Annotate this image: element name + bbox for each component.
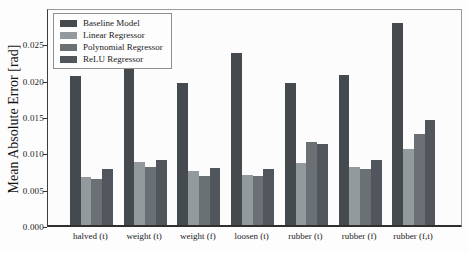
bar-relu-regressor-weight-f	[210, 168, 221, 225]
legend-label: Baseline Model	[83, 18, 140, 28]
bar-baseline-model-rubber-f	[339, 75, 350, 225]
y-tick-mark	[43, 191, 47, 192]
y-tick-mark	[43, 82, 47, 83]
bar-linear-regressor-weight-t	[134, 162, 145, 225]
legend-swatch-linear-regressor	[60, 32, 77, 39]
y-tick-mark	[43, 118, 47, 119]
bar-polynomial-regressor-loosen-t	[253, 176, 264, 225]
bar-baseline-model-halved-t	[70, 76, 81, 225]
bar-relu-regressor-weight-t	[156, 160, 167, 225]
bar-linear-regressor-rubber-t	[296, 163, 307, 226]
legend-swatch-polynomial-regressor	[60, 44, 77, 51]
bar-polynomial-regressor-halved-t	[91, 179, 102, 226]
bar-linear-regressor-halved-t	[81, 177, 92, 225]
y-tick-label-0.000: 0.000	[10, 222, 44, 232]
legend-label: Linear Regressor	[83, 30, 145, 40]
bar-baseline-model-loosen-t	[231, 53, 242, 225]
bar-relu-regressor-rubber-t	[317, 144, 328, 225]
y-tick-label-0.025: 0.025	[10, 40, 44, 50]
y-tick-mark	[43, 227, 47, 228]
bar-linear-regressor-rubber-f	[349, 167, 360, 225]
figure-canvas: Mean Absolute Error [rad] Baseline Model…	[0, 0, 469, 253]
bar-baseline-model-rubber-f-t	[392, 23, 403, 225]
y-tick-label-0.015: 0.015	[10, 113, 44, 123]
y-tick-label-0.020: 0.020	[10, 77, 44, 87]
y-tick-mark	[43, 154, 47, 155]
legend-entry-baseline-model: Baseline Model	[60, 18, 163, 28]
legend-entry-polynomial-regressor: Polynomial Regressor	[60, 42, 163, 52]
bar-linear-regressor-weight-f	[188, 171, 199, 225]
y-tick-label-0.005: 0.005	[10, 186, 44, 196]
y-tick-label-0.010: 0.010	[10, 149, 44, 159]
bar-relu-regressor-loosen-t	[263, 169, 274, 225]
bar-polynomial-regressor-weight-f	[199, 176, 210, 225]
bar-baseline-model-rubber-t	[285, 83, 296, 225]
bar-polynomial-regressor-rubber-f	[360, 169, 371, 225]
bar-relu-regressor-halved-t	[102, 169, 113, 225]
legend-box: Baseline ModelLinear RegressorPolynomial…	[53, 13, 172, 69]
legend-swatch-baseline-model	[60, 20, 77, 27]
legend-entry-relu-regressor: ReLU Regressor	[60, 54, 163, 64]
y-tick-mark	[43, 45, 47, 46]
bar-polynomial-regressor-rubber-t	[306, 142, 317, 225]
bar-baseline-model-weight-t	[124, 64, 135, 225]
bar-relu-regressor-rubber-f	[371, 160, 382, 225]
legend-label: Polynomial Regressor	[83, 42, 163, 52]
legend-entry-linear-regressor: Linear Regressor	[60, 30, 163, 40]
legend-swatch-relu-regressor	[60, 56, 77, 63]
bar-relu-regressor-rubber-f-t	[425, 120, 436, 225]
bar-baseline-model-weight-f	[177, 83, 188, 225]
bar-polynomial-regressor-weight-t	[145, 167, 156, 225]
x-tick-label-rubber-f-t: rubber (f,t)	[376, 231, 450, 242]
bar-linear-regressor-loosen-t	[242, 175, 253, 225]
bar-polynomial-regressor-rubber-f-t	[414, 134, 425, 225]
plot-area: Baseline ModelLinear RegressorPolynomial…	[47, 9, 462, 227]
legend-label: ReLU Regressor	[83, 54, 143, 64]
bar-linear-regressor-rubber-f-t	[403, 149, 414, 225]
